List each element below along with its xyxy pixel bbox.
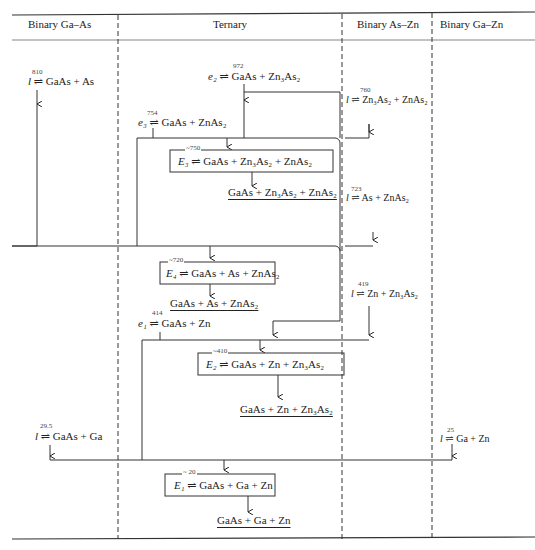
reaction-E4: E₄ ⇌ GaAs + As + ZnAs₂ <box>166 267 280 280</box>
reaction-ga-as-29-5: l ⇌ GaAs + Ga <box>35 430 102 443</box>
column-header-as-zn: Binary As–Zn <box>357 18 419 30</box>
column-header-ternary: Ternary <box>213 18 247 30</box>
reaction-E3: E₃ ⇌ GaAs + Zn₃As₂ + ZnAs₂ <box>178 155 312 168</box>
temp-E2: ~410 <box>212 347 228 355</box>
reaction-e3: e₃ ⇌ GaAs + ZnAs₂ <box>138 116 226 129</box>
temp-E1: ~ 20 <box>182 468 197 476</box>
temp-29-5: 29.5 <box>40 422 52 430</box>
reaction-E2: E₂ ⇌ GaAs + Zn + Zn₃As₂ <box>206 358 324 371</box>
temp-E4: ~720 <box>168 256 184 264</box>
reaction-as-zn-723: l ⇌ As + ZnAs₂ <box>346 192 409 203</box>
reaction-ga-zn-25: l ⇌ Ga + Zn <box>440 433 490 444</box>
reaction-E1: E₁ ⇌ GaAs + Ga + Zn <box>174 479 273 492</box>
temp-419: 419 <box>358 280 369 288</box>
reaction-e2: e₂ ⇌ GaAs + Zn₃As₂ <box>208 70 300 83</box>
column-header-ga-zn: Binary Ga–Zn <box>440 18 503 30</box>
product-E1: GaAs + Ga + Zn <box>217 514 291 526</box>
temp-972: 972 <box>233 62 244 70</box>
reaction-ga-as-810: l ⇌ GaAs + As <box>28 75 94 88</box>
reaction-e1: e₁ ⇌ GaAs + Zn <box>138 317 210 330</box>
product-E3: GaAs + Zn₃As₂ + ZnAs₂ <box>228 186 337 198</box>
temp-E3: ~750 <box>185 144 201 152</box>
reaction-as-zn-419: l ⇌ Zn + Zn₃As₂ <box>351 288 418 299</box>
reaction-as-zn-760: l ⇌ Zn₃As₂ + ZnAs₂ <box>346 94 428 105</box>
product-E2: GaAs + Zn + Zn₃As₂ <box>240 403 333 415</box>
product-E4: GaAs + As + ZnAs₂ <box>170 297 258 309</box>
temp-414: 414 <box>152 309 163 317</box>
temp-760: 760 <box>360 86 371 94</box>
column-header-ga-as: Binary Ga–As <box>28 18 91 30</box>
